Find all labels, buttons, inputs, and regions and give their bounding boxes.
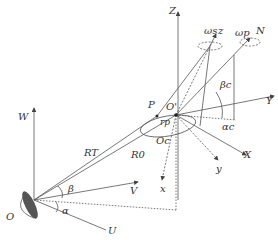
label-V: V xyxy=(130,186,137,196)
label-z: z xyxy=(218,26,223,36)
label-omega-s: ωs xyxy=(204,26,217,36)
y-axis xyxy=(176,96,274,115)
label-R0: R0 xyxy=(131,150,145,160)
label-alpha: α xyxy=(62,206,69,216)
label-N: N xyxy=(256,26,265,36)
label-RT: RT xyxy=(84,148,98,158)
label-Z: Z xyxy=(169,6,176,16)
label-omega-p: ωp xyxy=(235,28,250,38)
cone-axis xyxy=(176,42,212,115)
label-X: X xyxy=(244,150,251,160)
label-beta: β xyxy=(68,184,74,194)
label-W: W xyxy=(18,112,28,122)
label-Oc: Oc xyxy=(156,136,170,146)
diagram-canvas: Z ωs z ωp N βc Y P O' rp αc Oc X y x W R… xyxy=(0,0,278,246)
label-y: y xyxy=(216,164,222,174)
label-rp: rp xyxy=(160,118,170,127)
y-body-axis xyxy=(176,115,218,160)
label-beta-c: βc xyxy=(220,80,231,90)
x-axis xyxy=(176,115,246,155)
label-O-prime: O' xyxy=(166,102,177,112)
label-Y: Y xyxy=(266,96,273,106)
label-U: U xyxy=(108,226,116,236)
label-P: P xyxy=(148,100,155,110)
range-r0 xyxy=(34,115,176,200)
label-x: x xyxy=(160,184,166,194)
label-alpha-c: αc xyxy=(222,122,234,132)
label-O: O xyxy=(6,212,14,222)
